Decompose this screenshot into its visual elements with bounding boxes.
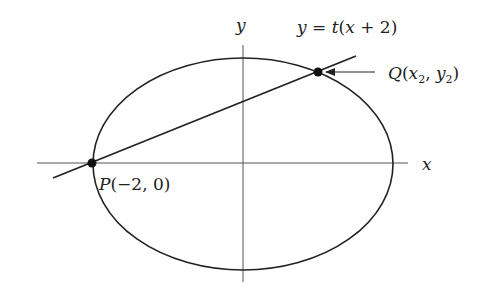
eq-two: 2 [380,17,391,37]
eq-close-paren: ) [391,17,398,37]
q-close-paren: ) [453,63,460,83]
diagram-canvas: y x y = t(x + 2) Q(x2, y2) P(−2, 0) [0,0,496,293]
eq-plus: + [355,17,380,37]
line-equation-label: y = t(x + 2) [296,17,397,37]
p-open-paren: ( [110,174,117,194]
eq-equals: = [307,17,332,37]
p-coords: −2, 0 [117,174,164,194]
eq-lhs: y [296,17,307,37]
q-x: x [409,63,419,83]
q-open-paren: ( [402,63,409,83]
q-y: y [435,63,446,83]
point-q-label: Q(x2, y2) [388,63,459,86]
eq-x: x [345,17,355,37]
eq-open-paren: ( [339,17,346,37]
q-comma: , [425,63,436,83]
point-p-label: P(−2, 0) [98,174,170,194]
q-x-subscript: 2 [418,73,425,86]
point-p-dot [88,159,97,168]
x-axis-label: x [422,154,432,174]
point-q-dot [314,68,323,77]
secant-line [53,56,356,178]
q-y-subscript: 2 [446,73,453,86]
y-axis-label: y [235,15,246,35]
p-name: P [98,174,111,194]
q-name: Q [388,63,402,83]
p-close-paren: ) [164,174,171,194]
